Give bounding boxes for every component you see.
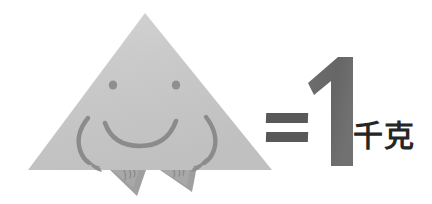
eye-dot-icon-right [172, 80, 180, 89]
triangle-character-figure [0, 0, 432, 204]
numeral-one-icon [308, 57, 353, 166]
illustration-scene: 千克 [0, 0, 432, 204]
eye-dot-icon-left [109, 80, 117, 89]
numeral-one-glyph [308, 57, 353, 166]
foot-icon-right-inner [161, 168, 190, 186]
